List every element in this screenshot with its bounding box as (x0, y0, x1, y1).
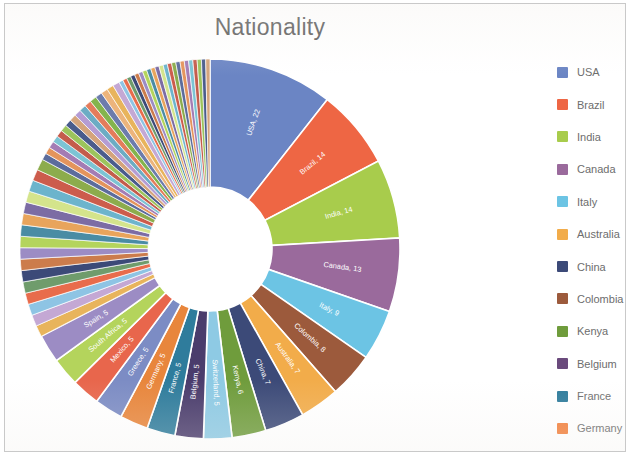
legend-item[interactable]: India (557, 121, 631, 153)
legend-item[interactable]: France (557, 380, 631, 412)
legend-item[interactable]: Canada (557, 153, 631, 185)
legend-swatch-icon (557, 261, 568, 272)
legend-item-label: China (577, 261, 606, 273)
donut-svg: USA, 22Brazil, 14India, 14Canada, 13Ital… (13, 34, 413, 446)
pie-slice-label: Switzerland, 5 (211, 359, 222, 406)
legend-item-label: Colombia (577, 293, 623, 305)
legend-item-label: Australia (577, 228, 620, 240)
chart-frame: Nationality USA, 22Brazil, 14India, 14Ca… (4, 3, 626, 452)
legend-item-label: Italy (577, 196, 597, 208)
legend-item-label: Belgium (577, 358, 617, 370)
legend-item[interactable]: Colombia (557, 283, 631, 315)
legend-swatch-icon (557, 99, 568, 110)
legend-item-label: Brazil (577, 99, 605, 111)
legend-item[interactable]: Brazil (557, 88, 631, 120)
legend-swatch-icon (557, 67, 568, 78)
legend-swatch-icon (557, 358, 568, 369)
legend-item[interactable]: Germany (557, 412, 631, 444)
legend-swatch-icon (557, 196, 568, 207)
legend-item-label: Canada (577, 163, 616, 175)
legend-item-label: Kenya (577, 325, 608, 337)
legend-item[interactable]: China (557, 250, 631, 282)
slice-group (20, 59, 400, 439)
legend-item-label: India (577, 131, 601, 143)
legend-item[interactable]: USA (557, 56, 631, 88)
legend-swatch-icon (557, 164, 568, 175)
legend-swatch-icon (557, 391, 568, 402)
legend-item[interactable]: Australia (557, 218, 631, 250)
legend-swatch-icon (557, 326, 568, 337)
legend-item-label: USA (577, 66, 600, 78)
legend-item-label: France (577, 390, 611, 402)
legend-swatch-icon (557, 293, 568, 304)
legend: USABrazilIndiaCanadaItalyAustraliaChinaC… (557, 56, 631, 445)
legend-swatch-icon (557, 131, 568, 142)
legend-swatch-icon (557, 229, 568, 240)
donut-chart[interactable]: USA, 22Brazil, 14India, 14Canada, 13Ital… (13, 34, 413, 446)
legend-item[interactable]: Italy (557, 186, 631, 218)
legend-item[interactable]: Belgium (557, 348, 631, 380)
legend-swatch-icon (557, 423, 568, 434)
legend-item[interactable]: Kenya (557, 315, 631, 347)
legend-item-label: Germany (577, 422, 622, 434)
